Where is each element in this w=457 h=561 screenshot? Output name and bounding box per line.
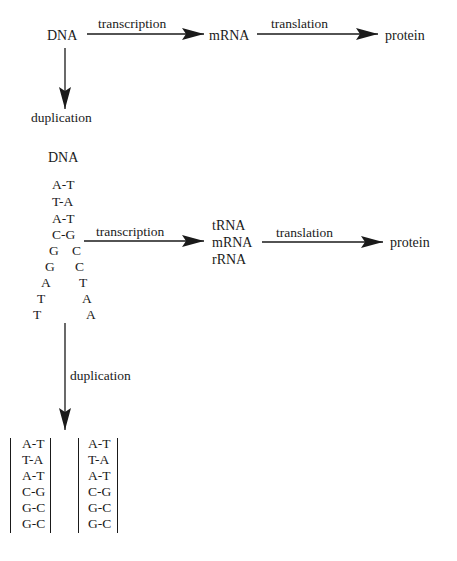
split-left-base: G (49, 244, 59, 258)
paired-row: A-T (52, 178, 75, 192)
detail-protein-label: protein (390, 236, 430, 250)
base-pair-row: G-C (88, 517, 111, 531)
base-pair-row: A-T (88, 437, 111, 451)
strand-backbone-left (78, 438, 79, 533)
rna-type-mrna: mRNA (212, 236, 252, 250)
base-pair-row: G-C (88, 501, 111, 515)
base-pair-row: T-A (88, 453, 109, 467)
top-mrna-label: mRNA (209, 29, 249, 43)
paired-row: C-G (52, 228, 75, 242)
base-pair-row: C-G (22, 485, 45, 499)
split-left-base: G (45, 260, 55, 274)
split-left-base: T (37, 292, 45, 306)
base-pair-row: A-T (22, 469, 45, 483)
top-protein-label: protein (385, 29, 425, 43)
top-translation-label: translation (271, 17, 328, 31)
split-left-base: A (41, 276, 51, 290)
base-pair-row: A-T (22, 437, 45, 451)
strand-backbone-right (117, 438, 118, 533)
arrows-layer (0, 0, 457, 561)
split-right-base: C (72, 244, 81, 258)
base-pair-row: G-C (22, 501, 45, 515)
split-right-base: T (79, 276, 87, 290)
top-dna-label: DNA (47, 29, 77, 43)
base-pair-row: G-C (22, 517, 45, 531)
detail-transcription-label: transcription (96, 225, 164, 239)
rna-type-trna: tRNA (212, 219, 245, 233)
split-right-base: A (86, 308, 96, 322)
base-pair-row: T-A (22, 453, 43, 467)
detail-duplication-label: duplication (70, 369, 131, 383)
detail-translation-label: translation (276, 226, 333, 240)
base-pair-row: A-T (88, 469, 111, 483)
split-left-base: T (33, 308, 41, 322)
split-right-base: A (82, 292, 92, 306)
detail-dna-title: DNA (48, 151, 78, 165)
top-duplication-label: duplication (31, 111, 92, 125)
base-pair-row: C-G (88, 485, 111, 499)
paired-row: A-T (52, 212, 75, 226)
top-transcription-label: transcription (98, 17, 166, 31)
paired-row: T-A (52, 195, 73, 209)
split-right-base: C (75, 260, 84, 274)
rna-type-rrna: rRNA (212, 253, 246, 267)
strand-backbone-right (50, 438, 51, 533)
strand-backbone-left (10, 438, 11, 533)
